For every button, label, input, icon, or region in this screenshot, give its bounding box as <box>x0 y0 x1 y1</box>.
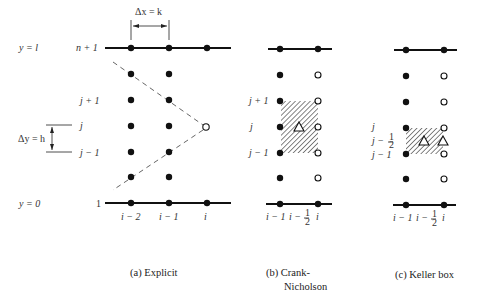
grid-nodes <box>403 47 447 208</box>
row-label-n-plus-1: n + 1 <box>76 42 98 53</box>
y-bottom-label: y = 0 <box>18 198 40 209</box>
panel-explicit: y = l y = 0 n + 1 j + 1 j j − 1 1 Δx = k… <box>18 6 231 279</box>
col-label-i: i <box>316 211 319 222</box>
col-label-i-minus-1: i − 1 <box>159 211 179 222</box>
col-label-i-minus-1: i − 1 <box>266 211 286 222</box>
dy-label: Δy = h <box>18 133 45 144</box>
col-label-i-minus-half: i − <box>416 212 428 223</box>
half-denominator: 2 <box>305 216 310 227</box>
caption-explicit: (a) Explicit <box>130 267 178 279</box>
row-label-j: j <box>78 120 83 131</box>
row-label-j-plus-1: j + 1 <box>247 95 269 106</box>
y-top-label: y = l <box>18 42 38 53</box>
panel-keller-box: j j − 1 2 j − 1 i − 1 i − 1 2 i (c) Kell… <box>370 47 457 281</box>
dx-arrowhead-left-icon <box>133 24 139 28</box>
dependence-line-upper <box>113 62 203 125</box>
caption-crank-line1: (b) Crank- <box>266 267 311 279</box>
dependence-line-lower <box>113 130 203 190</box>
row-label-j-minus-half: j − <box>370 135 384 146</box>
dy-arrowhead-up-icon <box>50 127 54 133</box>
col-label-i-minus-2: i − 2 <box>121 211 141 222</box>
col-label-i: i <box>204 211 207 222</box>
row-label-j: j <box>248 121 253 132</box>
grid-nodes <box>128 45 210 206</box>
half-denominator: 2 <box>432 217 437 228</box>
dx-arrowhead-right-icon <box>161 24 167 28</box>
caption-keller-box: (c) Keller box <box>395 269 455 281</box>
dx-label: Δx = k <box>135 6 162 17</box>
panel-crank-nicholson: j + 1 j j − 1 i − 1 i − 1 2 i (b) Crank-… <box>247 46 332 292</box>
row-label-j-plus-1: j + 1 <box>78 95 100 106</box>
row-label-j-minus-1: j − 1 <box>247 147 269 158</box>
col-label-i: i <box>442 212 445 223</box>
col-label-i-minus-half: i − <box>289 211 301 222</box>
row-label-j-minus-1: j − 1 <box>78 147 100 158</box>
caption-crank-line2: Nicholson <box>284 281 328 292</box>
unknown-node-icon <box>203 124 209 130</box>
row-label-1: 1 <box>96 198 101 209</box>
row-label-j: j <box>370 121 375 132</box>
finite-difference-grids-figure: y = l y = 0 n + 1 j + 1 j j − 1 1 Δx = k… <box>0 0 479 295</box>
row-label-j-minus-1: j − 1 <box>370 149 392 160</box>
col-label-i-minus-1: i − 1 <box>393 212 413 223</box>
dy-arrowhead-down-icon <box>50 144 54 150</box>
